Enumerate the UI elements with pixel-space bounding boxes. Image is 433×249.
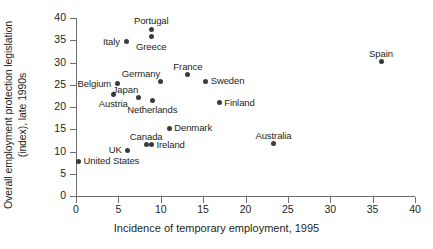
y-axis-tick <box>70 174 76 175</box>
y-axis-title-line-2: (index), late 1990s <box>16 12 28 218</box>
data-point <box>124 39 129 44</box>
data-point-label: Denmark <box>174 122 212 133</box>
data-point-label: Germany <box>122 68 160 79</box>
x-axis-tick-label: 0 <box>61 203 91 215</box>
y-axis-tick-label: 10 <box>44 145 66 157</box>
y-axis-tick-label: 25 <box>44 78 66 90</box>
data-point-label: United States <box>84 155 140 166</box>
data-point <box>76 159 81 164</box>
y-axis-tick <box>70 85 76 86</box>
y-axis-title-line-1: Overall employment protection legislatio… <box>2 12 14 218</box>
data-point <box>167 126 172 131</box>
data-point-label: France <box>173 61 202 72</box>
data-point <box>185 72 190 77</box>
x-axis-tick-label: 15 <box>188 203 218 215</box>
data-point <box>203 79 208 84</box>
data-point-label: Greece <box>136 41 167 52</box>
data-point-label: Japan <box>113 84 138 95</box>
x-axis-tick-label: 25 <box>273 203 303 215</box>
data-point-label: UK <box>109 144 122 155</box>
x-axis-tick-label: 30 <box>315 203 345 215</box>
data-point <box>136 95 141 100</box>
data-point-label: Portugal <box>134 15 169 26</box>
y-axis-tick <box>70 18 76 19</box>
data-point-label: Finland <box>224 97 254 108</box>
y-axis-tick-label: 5 <box>44 167 66 179</box>
x-axis-tick-label: 5 <box>103 203 133 215</box>
data-point-label: Ireland <box>156 139 184 150</box>
data-point <box>149 142 154 147</box>
y-axis-tick <box>70 152 76 153</box>
data-point <box>150 98 155 103</box>
y-axis-tick <box>70 107 76 108</box>
data-point-label: Sweden <box>211 75 245 86</box>
data-point-label: Austria <box>99 98 128 109</box>
scatter-chart: Overall employment protection legislatio… <box>0 0 433 249</box>
y-axis-tick-label: 35 <box>44 33 66 45</box>
x-axis-tick-label: 20 <box>231 203 261 215</box>
data-point-label: Australia <box>255 130 291 141</box>
y-axis-tick-label: 30 <box>44 56 66 68</box>
x-axis-tick-label: 10 <box>146 203 176 215</box>
x-axis-title: Incidence of temporary employment, 1995 <box>0 222 433 234</box>
data-point-label: Spain <box>369 48 393 59</box>
data-point <box>149 27 154 32</box>
data-point <box>158 79 163 84</box>
y-axis-tick-label: 0 <box>44 189 66 201</box>
y-axis-tick <box>70 63 76 64</box>
y-axis-line <box>76 18 77 197</box>
y-axis-tick-label: 15 <box>44 122 66 134</box>
data-point-label: Italy <box>103 36 120 47</box>
data-point <box>149 34 154 39</box>
data-point <box>217 100 222 105</box>
y-axis-tick <box>70 129 76 130</box>
data-point <box>379 59 384 64</box>
x-axis-tick-label: 35 <box>358 203 388 215</box>
y-axis-tick-label: 40 <box>44 11 66 23</box>
data-point <box>125 148 130 153</box>
data-point-label: Netherlands <box>127 104 177 115</box>
y-axis-tick <box>70 40 76 41</box>
data-point <box>271 141 276 146</box>
y-axis-title: Overall employment protection legislatio… <box>0 0 46 210</box>
y-axis-tick-label: 20 <box>44 100 66 112</box>
x-axis-tick-label: 40 <box>400 203 430 215</box>
data-point-label: Belgium <box>78 78 112 89</box>
